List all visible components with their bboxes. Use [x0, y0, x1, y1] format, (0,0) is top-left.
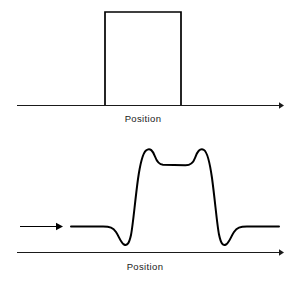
top-axis-arrowhead-icon: [279, 102, 284, 109]
panel-ideal-rect-profile: Position: [0, 0, 291, 131]
top-xlabel: Position: [125, 113, 162, 124]
panel-gibbs-ringing-profile: Position: [0, 131, 291, 282]
ideal-rect-pulse-curve: [105, 12, 181, 105]
bottom-xlabel: Position: [127, 261, 164, 272]
top-position-axis: [17, 102, 284, 109]
baseline-arrow-icon: [20, 223, 63, 230]
bottom-axis-arrowhead-icon: [279, 249, 284, 256]
baseline-arrow-head: [56, 223, 63, 230]
figure-container: Position Position: [0, 0, 291, 282]
gibbs-ringing-curve: [71, 149, 279, 245]
bottom-position-axis: [17, 249, 284, 256]
